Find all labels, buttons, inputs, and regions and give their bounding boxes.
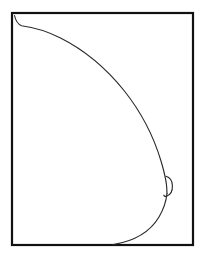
- figure-frame-border: [12, 13, 193, 245]
- figure-container: Breast lateral profile line drawing: [0, 0, 205, 258]
- areola-base-line: [166, 184, 167, 194]
- breast-profile-figure: [0, 0, 205, 258]
